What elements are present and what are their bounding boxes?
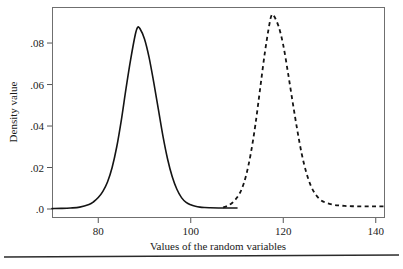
y-tick-label: .04 (30, 120, 44, 132)
x-tick-label: 120 (275, 225, 292, 237)
x-tick-label: 100 (183, 225, 200, 237)
y-axis-title: Density value (7, 81, 19, 142)
x-tick-label: 140 (368, 225, 385, 237)
x-tick-label: 80 (93, 225, 105, 237)
y-tick-label: .08 (30, 37, 44, 49)
density-plot-figure: 80100120140 .0.02.04.06.08 Values of the… (0, 0, 403, 269)
x-axis-title: Values of the random variables (150, 240, 286, 252)
figure-background (0, 0, 403, 269)
y-tick-label: .0 (36, 203, 45, 215)
y-tick-label: .02 (30, 162, 44, 174)
y-tick-label: .06 (30, 79, 44, 91)
